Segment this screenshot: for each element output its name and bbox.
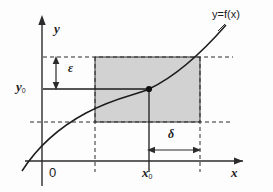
origin-label: 0 (49, 166, 56, 179)
point-x0-y0 (146, 86, 152, 92)
y0-label: y0 (16, 80, 26, 94)
y0-label-subscript: 0 (22, 87, 26, 94)
x0-label-subscript: 0 (149, 173, 153, 180)
x0-label: x0 (142, 166, 152, 180)
x-axis-label: x (231, 166, 238, 179)
y-axis-label: y (54, 22, 60, 35)
diagram-canvas (0, 0, 273, 192)
epsilon-label: ε (68, 62, 73, 74)
epsilon-delta-diagram: y=f(x) y x 0 y0 x0 ε δ (0, 0, 273, 192)
delta-label: δ (168, 128, 174, 140)
y-axis-arrowhead (38, 15, 45, 25)
function-label: y=f(x) (212, 9, 240, 20)
x-axis-arrowhead (234, 158, 243, 165)
delta-arrowhead-right (193, 147, 201, 154)
delta-arrowhead-left (147, 147, 155, 154)
